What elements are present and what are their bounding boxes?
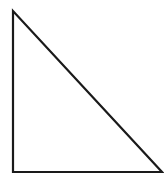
right-triangle-shape (13, 11, 162, 172)
diagram-canvas (0, 0, 164, 180)
